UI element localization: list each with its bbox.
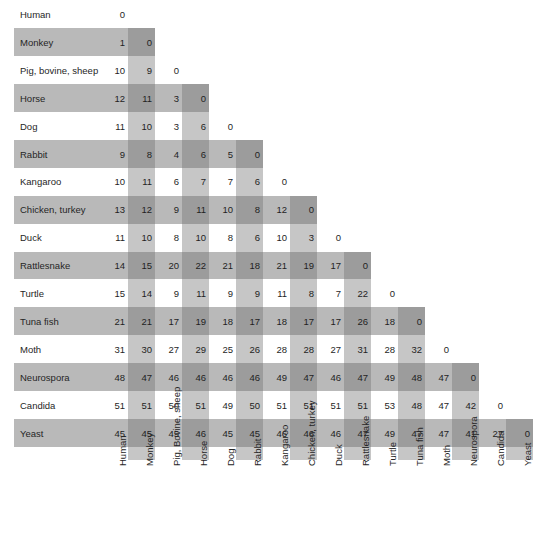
cell-8-4: 11 (182, 204, 206, 215)
cell-12-1: 21 (101, 316, 125, 327)
row-label-12: Tuna fish (20, 316, 59, 327)
column-label-8: Chicken, turkey (306, 401, 317, 466)
cell-10-3: 20 (155, 260, 179, 271)
cell-2-2: 0 (128, 37, 152, 48)
cell-15-6: 50 (236, 400, 260, 411)
cell-10-2: 15 (128, 260, 152, 271)
cell-9-1: 11 (101, 232, 125, 243)
column-label-12: Tuna fish (414, 427, 425, 466)
cell-7-4: 7 (182, 176, 206, 187)
cell-13-3: 27 (155, 344, 179, 355)
cell-7-1: 10 (101, 176, 125, 187)
cell-6-5: 5 (209, 149, 233, 160)
cell-1-1: 0 (101, 9, 125, 20)
cell-16-13: 47 (425, 428, 449, 439)
column-label-4: Horse (198, 441, 209, 466)
cell-6-1: 9 (101, 149, 125, 160)
cell-5-1: 11 (101, 121, 125, 132)
cell-14-2: 47 (128, 372, 152, 383)
column-label-3: Pig, Bovine, sheep (171, 387, 182, 466)
row-label-7: Kangaroo (20, 176, 61, 187)
cell-9-6: 6 (236, 232, 260, 243)
cell-11-1: 15 (101, 288, 125, 299)
cell-11-5: 9 (209, 288, 233, 299)
cell-5-5: 0 (209, 121, 233, 132)
column-label-14: Neurospora (468, 416, 479, 466)
cell-13-5: 25 (209, 344, 233, 355)
cell-15-2: 51 (128, 400, 152, 411)
cell-12-5: 18 (209, 316, 233, 327)
cell-8-2: 12 (128, 204, 152, 215)
cell-10-4: 22 (182, 260, 206, 271)
cell-4-3: 3 (155, 93, 179, 104)
cell-8-1: 13 (101, 204, 125, 215)
cell-3-2: 9 (128, 65, 152, 76)
cell-13-7: 28 (263, 344, 287, 355)
cell-6-2: 8 (128, 149, 152, 160)
row-label-14: Neurospora (20, 372, 70, 383)
cell-5-4: 6 (182, 121, 206, 132)
cell-13-8: 28 (290, 344, 314, 355)
column-label-5: Dog (225, 449, 236, 466)
cell-16-11: 49 (371, 428, 395, 439)
cell-14-14: 0 (452, 372, 476, 383)
cell-8-8: 0 (290, 204, 314, 215)
cell-14-9: 46 (317, 372, 341, 383)
cell-14-11: 49 (371, 372, 395, 383)
column-label-9: Duck (333, 444, 344, 466)
cell-14-10: 47 (344, 372, 368, 383)
cell-12-10: 26 (344, 316, 368, 327)
cell-8-6: 8 (236, 204, 260, 215)
cell-15-7: 51 (263, 400, 287, 411)
cell-15-14: 42 (452, 400, 476, 411)
column-label-2: Monkey (144, 433, 155, 466)
cell-16-4: 46 (182, 428, 206, 439)
row-label-13: Moth (20, 344, 41, 355)
cell-4-2: 11 (128, 93, 152, 104)
cell-7-3: 6 (155, 176, 179, 187)
cell-9-2: 10 (128, 232, 152, 243)
row-label-5: Dog (20, 121, 37, 132)
cell-11-2: 14 (128, 288, 152, 299)
column-band-6 (236, 140, 263, 460)
column-label-13: Moth (441, 445, 452, 466)
column-label-15: Candida (495, 431, 506, 466)
cell-9-8: 3 (290, 232, 314, 243)
column-label-7: Kangaroo (279, 425, 290, 466)
row-label-9: Duck (20, 232, 42, 243)
cell-12-6: 17 (236, 316, 260, 327)
cell-11-3: 9 (155, 288, 179, 299)
cell-3-1: 10 (101, 65, 125, 76)
cell-14-7: 49 (263, 372, 287, 383)
cell-13-11: 28 (371, 344, 395, 355)
cell-14-6: 46 (236, 372, 260, 383)
cell-11-4: 11 (182, 288, 206, 299)
cell-14-13: 47 (425, 372, 449, 383)
cell-8-7: 12 (263, 204, 287, 215)
row-label-4: Horse (20, 93, 45, 104)
cell-10-5: 21 (209, 260, 233, 271)
cell-14-12: 48 (398, 372, 422, 383)
cell-15-9: 51 (317, 400, 341, 411)
row-label-2: Monkey (20, 37, 53, 48)
cell-10-1: 14 (101, 260, 125, 271)
cell-12-2: 21 (128, 316, 152, 327)
cell-10-9: 17 (317, 260, 341, 271)
column-label-11: Turtle (387, 442, 398, 466)
cell-15-11: 53 (371, 400, 395, 411)
cell-14-1: 48 (101, 372, 125, 383)
cell-4-4: 0 (182, 93, 206, 104)
cell-9-9: 0 (317, 232, 341, 243)
cell-14-8: 47 (290, 372, 314, 383)
cell-13-4: 29 (182, 344, 206, 355)
cell-13-6: 26 (236, 344, 260, 355)
cell-16-5: 45 (209, 428, 233, 439)
cell-15-15: 0 (479, 400, 503, 411)
row-label-15: Candida (20, 400, 55, 411)
cell-11-8: 8 (290, 288, 314, 299)
cell-13-2: 30 (128, 344, 152, 355)
cell-16-16: 0 (506, 428, 530, 439)
column-label-10: Rattlesnake (360, 416, 371, 466)
cell-12-12: 0 (398, 316, 422, 327)
